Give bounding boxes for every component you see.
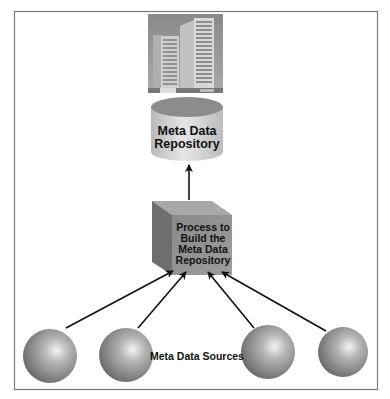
diagram-svg: [0, 0, 390, 399]
source-sphere-4: [318, 327, 368, 377]
source-arrows: [66, 271, 326, 331]
arrow-source-3: [208, 272, 254, 328]
arrow-source-2: [138, 272, 186, 328]
arrow-source-1: [66, 271, 173, 328]
source-sphere-1: [23, 329, 77, 383]
diagram-canvas: Meta Data Repository Process to Build th…: [0, 0, 390, 399]
arrow-source-4: [222, 272, 326, 331]
sources-label: Meta Data Sources: [150, 351, 244, 362]
source-sphere-2: [99, 328, 153, 382]
repository-label-line2: Repository: [151, 138, 223, 151]
source-sphere-3: [241, 325, 295, 379]
office-building-icon: [148, 14, 223, 93]
repository-label: Meta Data Repository: [151, 125, 223, 151]
process-label: Process to Build the Meta Data Repositor…: [172, 222, 234, 266]
process-label-line4: Repository: [172, 255, 234, 266]
